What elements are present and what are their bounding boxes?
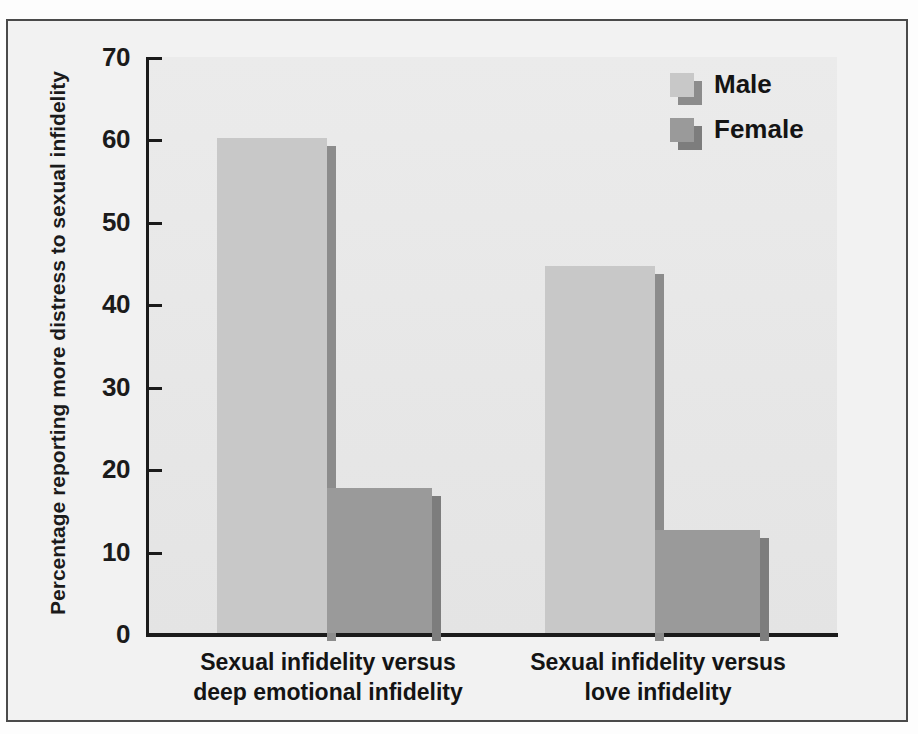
x-category-label-2: Sexual infidelity versus love infidelity (493, 647, 823, 708)
bar-face (655, 530, 760, 633)
y-tick-40 (149, 304, 162, 307)
bar-chart: 70 60 50 40 30 20 10 0 Percentage report… (8, 21, 906, 720)
y-tick-70 (149, 57, 162, 60)
bar-face (545, 266, 655, 633)
y-tick-label-50: 50 (70, 207, 130, 238)
legend-swatch-face (670, 118, 694, 142)
y-tick-60 (149, 139, 162, 142)
y-tick-20 (149, 469, 162, 472)
y-tick-label-20: 20 (70, 454, 130, 485)
bar-female-group2[interactable] (655, 530, 760, 633)
y-tick-30 (149, 387, 162, 390)
y-axis-line (146, 57, 149, 635)
x-category-label-2-line2: love infidelity (493, 677, 823, 707)
bar-female-group1[interactable] (327, 488, 432, 633)
x-category-label-1-line1: Sexual infidelity versus (163, 647, 493, 677)
y-tick-label-10: 10 (70, 537, 130, 568)
bar-male-group2[interactable] (545, 266, 655, 633)
legend-label-female: Female (714, 114, 804, 145)
y-tick-label-70: 70 (70, 42, 130, 73)
legend-swatch-face (670, 73, 694, 97)
y-tick-50 (149, 222, 162, 225)
bar-face (327, 488, 432, 633)
bar-shadow (432, 496, 441, 641)
legend-label-male: Male (714, 69, 772, 100)
y-tick-10 (149, 552, 162, 555)
y-axis-title: Percentage reporting more distress to se… (46, 38, 70, 648)
legend-swatch-male-icon (670, 73, 694, 97)
x-category-label-1: Sexual infidelity versus deep emotional … (163, 647, 493, 708)
y-tick-label-30: 30 (70, 372, 130, 403)
x-category-label-2-line1: Sexual infidelity versus (493, 647, 823, 677)
x-category-label-1-line2: deep emotional infidelity (163, 677, 493, 707)
bar-face (217, 138, 327, 633)
bar-shadow (760, 538, 769, 641)
legend-swatch-female-icon (670, 118, 694, 142)
y-tick-label-60: 60 (70, 124, 130, 155)
screenshot-root: 70 60 50 40 30 20 10 0 Percentage report… (0, 0, 918, 734)
y-tick-label-0: 0 (70, 619, 130, 650)
bar-male-group1[interactable] (217, 138, 327, 633)
figure-frame: 70 60 50 40 30 20 10 0 Percentage report… (6, 19, 908, 722)
x-axis-line (146, 633, 838, 637)
y-tick-label-40: 40 (70, 289, 130, 320)
